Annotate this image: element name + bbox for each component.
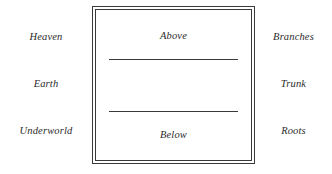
zone-below: Below [96,111,251,162]
left-label-column: Heaven Earth Underworld [0,0,92,174]
world-axis-box-outer-border: Above Below [92,6,255,164]
right-label-branches: Branches [255,31,332,43]
divider-upper-rule [109,59,238,60]
right-label-roots: Roots [255,125,332,137]
zone-label-below: Below [96,129,251,141]
left-label-earth: Earth [0,78,92,90]
left-label-heaven: Heaven [0,31,92,43]
zone-label-above: Above [96,30,251,42]
divider-lower-rule [109,111,238,112]
zone-middle [96,59,251,111]
world-axis-box-inner-border: Above Below [95,9,252,161]
diagram-root: Heaven Earth Underworld Above Below Bran… [0,0,332,174]
right-label-column: Branches Trunk Roots [255,0,332,174]
zone-above: Above [96,10,251,59]
right-label-trunk: Trunk [255,78,332,90]
left-label-underworld: Underworld [0,125,92,137]
